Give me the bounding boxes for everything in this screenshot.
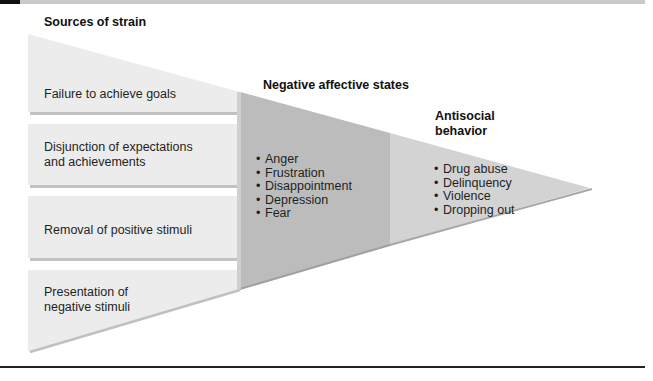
negative-states-list: Anger Frustration Disappointment Depress… [256,153,352,221]
source-disjunction: Disjunction of expectations and achievem… [44,140,193,170]
antisocial-heading: Antisocial behavior [435,109,495,139]
list-item: Disappointment [256,180,352,194]
list-item: Frustration [256,167,352,181]
list-item: Violence [434,190,515,204]
bottom-rule [0,366,645,368]
antisocial-list: Drug abuse Delinquency Violence Dropping… [434,163,515,217]
source-presentation-negative: Presentation of negative stimuli [44,285,130,315]
list-item: Anger [256,153,352,167]
list-item: Fear [256,207,352,221]
source-failure-goals: Failure to achieve goals [44,87,176,102]
list-item: Depression [256,194,352,208]
source-removal-positive: Removal of positive stimuli [44,223,192,238]
sources-heading: Sources of strain [44,15,146,30]
list-item: Delinquency [434,177,515,191]
negative-states-heading: Negative affective states [263,78,409,93]
list-item: Drug abuse [434,163,515,177]
list-item: Dropping out [434,204,515,218]
